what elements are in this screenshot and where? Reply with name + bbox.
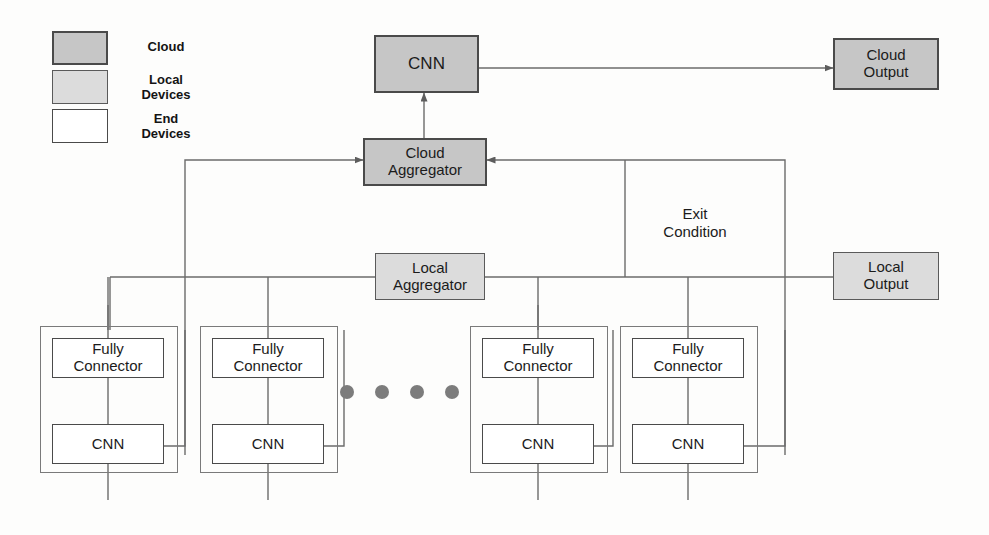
cloud-output-node[interactable]: Cloud Output (833, 38, 939, 90)
local-aggregator-node[interactable]: Local Aggregator (375, 253, 485, 300)
legend-label-local-devices: Local Devices (118, 73, 214, 103)
legend-swatch-cloud (52, 31, 108, 65)
local-output-node[interactable]: Local Output (833, 252, 939, 300)
ellipsis-dot (340, 385, 354, 399)
ellipsis-dot (410, 385, 424, 399)
ellipsis-dot (375, 385, 389, 399)
end-device-4-fully-connector[interactable]: Fully Connector (632, 338, 744, 378)
end-device-1-cnn[interactable]: CNN (52, 424, 164, 464)
cloud-cnn-node[interactable]: CNN (374, 35, 479, 93)
cloud-aggregator-node[interactable]: Cloud Aggregator (363, 138, 487, 186)
ellipsis-dot (445, 385, 459, 399)
end-device-2-fully-connector[interactable]: Fully Connector (212, 338, 324, 378)
exit-condition-label: Exit Condition (640, 205, 750, 241)
end-device-4-cnn[interactable]: CNN (632, 424, 744, 464)
legend-label-end-devices: End Devices (118, 112, 214, 142)
legend-swatch-local-devices (52, 70, 108, 104)
legend-label-cloud: Cloud (118, 40, 214, 55)
end-device-3-fully-connector[interactable]: Fully Connector (482, 338, 594, 378)
end-device-2-cnn[interactable]: CNN (212, 424, 324, 464)
legend-swatch-end-devices (52, 109, 108, 143)
end-device-3-cnn[interactable]: CNN (482, 424, 594, 464)
end-device-1-fully-connector[interactable]: Fully Connector (52, 338, 164, 378)
diagram-canvas: Cloud Local Devices End Devices CNN Clou… (0, 0, 989, 535)
